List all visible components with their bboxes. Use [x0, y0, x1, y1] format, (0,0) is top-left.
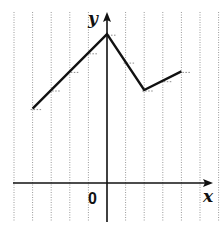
x-axis-label: x [202, 186, 214, 206]
y-axis-label: y [87, 8, 99, 28]
origin-label: 0 [88, 190, 97, 207]
function-graph: y x 0 [0, 0, 224, 226]
grid-lines [14, 12, 219, 222]
helper-dash-marks [31, 35, 191, 109]
